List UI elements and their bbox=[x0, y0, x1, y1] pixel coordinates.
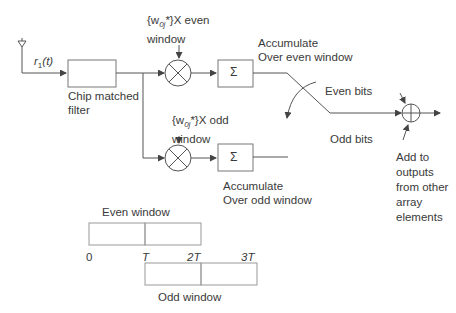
even-window-boxes bbox=[89, 223, 201, 245]
even-window-label: Even window bbox=[102, 205, 170, 219]
even-accumulate-label: Accumulate Over even window bbox=[258, 36, 353, 64]
odd-bits-label: Odd bits bbox=[330, 132, 373, 146]
filter-to-odd-mult-line bbox=[143, 73, 164, 158]
even-sigma-symbol: Σ bbox=[230, 65, 237, 79]
odd-sigma-symbol: Σ bbox=[230, 150, 237, 164]
odd-window-label: Odd window bbox=[158, 290, 221, 304]
input-signal-label: r1(t) bbox=[34, 54, 53, 73]
chip-filter-label: Chip matched filter bbox=[68, 89, 139, 117]
tick-0: 0 bbox=[86, 250, 92, 264]
summing-junction-icon bbox=[402, 104, 420, 122]
switch-arrow bbox=[287, 82, 316, 118]
receiver-block-diagram bbox=[0, 0, 456, 313]
even-weight-label: {w0j*}X even window bbox=[147, 13, 210, 46]
odd-window-boxes bbox=[145, 263, 257, 285]
tick-T: T bbox=[142, 250, 149, 264]
even-multiplier-icon bbox=[165, 60, 191, 86]
odd-multiplier-icon bbox=[165, 145, 191, 171]
odd-weight-label: {w0j*}X odd window bbox=[172, 113, 229, 146]
even-bits-label: Even bits bbox=[325, 84, 372, 98]
summer-label: Add to outputs from other array elements bbox=[396, 150, 448, 225]
tick-2T: 2T bbox=[187, 250, 200, 264]
tick-3T: 3T bbox=[241, 250, 254, 264]
odd-accumulate-label: Accumulate Over odd window bbox=[223, 179, 312, 207]
chip-matched-filter-block bbox=[68, 60, 116, 87]
antenna-icon bbox=[18, 38, 26, 47]
